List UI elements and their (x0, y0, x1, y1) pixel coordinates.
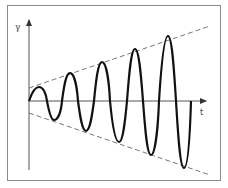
y-axis-label: γ (15, 23, 20, 32)
growing-oscillation-plot (0, 0, 228, 188)
oscillation-curve (29, 36, 191, 168)
upper-envelope-line (29, 26, 210, 88)
x-axis-label: t (200, 109, 203, 117)
